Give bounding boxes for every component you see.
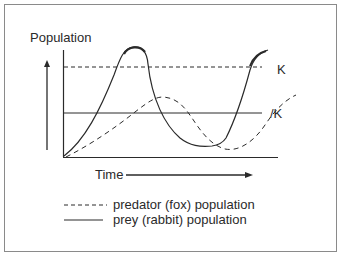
legend-predator-label: predator (fox) population	[113, 198, 255, 211]
half-capacity-label: /K	[270, 107, 282, 120]
x-axis-label: Time	[95, 168, 123, 181]
y-axis-label: Population	[30, 31, 91, 44]
population-up-arrow-icon	[44, 60, 50, 150]
prey-curve	[64, 47, 268, 156]
prey-peak-emphasis	[124, 47, 145, 54]
time-arrow-icon	[126, 172, 253, 178]
predator-curve	[66, 95, 296, 157]
carrying-capacity-label: K	[277, 63, 286, 76]
legend-prey-label: prey (rabbit) population	[113, 213, 247, 226]
